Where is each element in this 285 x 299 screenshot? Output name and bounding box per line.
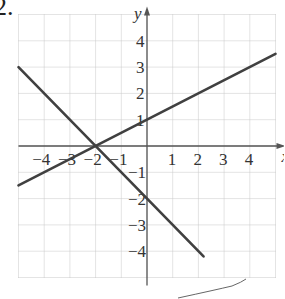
coordinate-plane: xy−4−3−2−112344321−1−2−3−4 — [0, 0, 284, 299]
y-axis-label: y — [132, 4, 142, 23]
y-axis-arrow-icon — [144, 7, 150, 16]
y-tick-label: 3 — [136, 58, 145, 77]
x-axis-label: x — [281, 147, 285, 166]
x-tick-label: −2 — [84, 150, 102, 169]
y-tick-label: −2 — [128, 190, 146, 209]
y-tick-label: −1 — [128, 163, 146, 182]
x-tick-label: 1 — [168, 150, 177, 169]
x-tick-label: 3 — [219, 150, 228, 169]
x-tick-label: −4 — [32, 150, 51, 169]
y-tick-label: 2 — [136, 84, 145, 103]
x-tick-label: −1 — [109, 150, 127, 169]
x-tick-label: 4 — [245, 150, 254, 169]
y-tick-label: 4 — [136, 32, 145, 51]
x-tick-label: 2 — [193, 150, 202, 169]
y-tick-label: −4 — [128, 242, 147, 261]
pencil-mark — [178, 279, 246, 298]
y-tick-label: −3 — [128, 216, 146, 235]
